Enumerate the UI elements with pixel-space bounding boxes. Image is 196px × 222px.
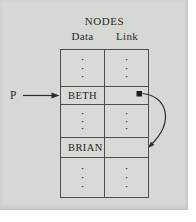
ellipsis-dot: · — [125, 167, 128, 170]
link-cell-beth — [105, 87, 148, 104]
ellipsis-dot: · — [81, 58, 84, 61]
ellipsis-dot: · — [125, 58, 128, 61]
ellipsis-dot: · — [81, 176, 84, 179]
link-cell-dots: · · · — [105, 50, 148, 86]
link-cell-dots: · · · — [105, 158, 148, 197]
ellipsis-dot: · — [125, 176, 128, 179]
nodes-table: · · · · · · BETH · · · · · · — [60, 49, 149, 198]
ellipsis-dot: · — [125, 112, 128, 115]
table-row-dots: · · · · · · — [61, 158, 148, 197]
table-row-beth: BETH — [61, 87, 148, 105]
ellipsis-dot: · — [125, 127, 128, 130]
ellipsis-dot: · — [81, 67, 84, 70]
data-cell-dots: · · · — [61, 158, 105, 197]
ellipsis-dot: · — [81, 75, 84, 78]
data-cell-dots: · · · — [61, 50, 105, 86]
column-headers: Data Link — [60, 30, 149, 42]
ellipsis-dot: · — [81, 185, 84, 188]
ellipsis-dot: · — [81, 127, 84, 130]
link-cell-brian — [105, 138, 148, 157]
ellipsis-dot: · — [125, 67, 128, 70]
data-cell-brian: BRIAN — [61, 138, 105, 157]
ellipsis-dot: · — [81, 167, 84, 170]
table-row-brian: BRIAN — [61, 138, 148, 158]
table-row-dots: · · · · · · — [61, 105, 148, 138]
pointer-p-label: P — [10, 89, 16, 101]
link-cell-dots: · · · — [105, 105, 148, 137]
column-header-link: Link — [105, 30, 149, 42]
figure-canvas: NODES Data Link · · · · · · BETH · · — [0, 0, 196, 222]
table-row-dots: · · · · · · — [61, 50, 148, 87]
ellipsis-dot: · — [125, 185, 128, 188]
column-header-data: Data — [60, 30, 105, 42]
ellipsis-dot: · — [81, 112, 84, 115]
data-cell-dots: · · · — [61, 105, 105, 137]
data-cell-beth: BETH — [61, 87, 105, 104]
figure-title: NODES — [60, 15, 149, 27]
ellipsis-dot: · — [125, 75, 128, 78]
